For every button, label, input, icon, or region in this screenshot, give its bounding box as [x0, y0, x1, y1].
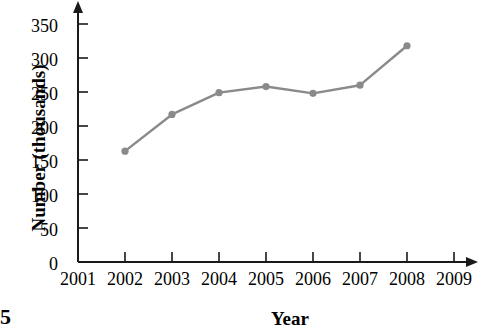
plot-area — [0, 0, 493, 334]
y-axis-arrow-icon — [73, 1, 83, 13]
x-axis-arrow-icon — [466, 257, 478, 267]
data-point-2002 — [121, 148, 128, 155]
data-point-2003 — [168, 111, 175, 118]
page-number: 5 — [0, 304, 11, 330]
chart-figure: Number (thousands) Year 350 300 250 200 … — [0, 0, 493, 334]
data-series-markers — [121, 42, 410, 155]
data-series-line — [125, 46, 407, 151]
data-point-2008 — [403, 42, 410, 49]
y-axis — [73, 1, 83, 262]
data-point-2005 — [262, 83, 269, 90]
x-axis — [78, 257, 478, 267]
data-point-2004 — [215, 89, 222, 96]
y-axis-ticks — [78, 24, 88, 228]
x-axis-ticks — [125, 252, 454, 262]
data-point-2007 — [356, 82, 363, 89]
data-point-2006 — [309, 90, 316, 97]
